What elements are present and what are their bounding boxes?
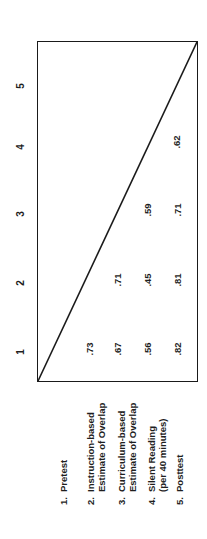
cell-r5-c2: .81 xyxy=(172,265,183,295)
cell-r4-c2: .45 xyxy=(142,265,153,295)
row-number: 5. xyxy=(174,492,185,505)
row-number: 2. xyxy=(85,492,96,505)
row-number: 1. xyxy=(58,492,69,505)
cell-r3-c2: .71 xyxy=(112,265,123,295)
row-label-line: Curriculum-based xyxy=(116,411,127,492)
row-label-line: Instruction-based xyxy=(85,412,96,492)
cell-r4-c3: .59 xyxy=(142,195,153,225)
rotated-correlation-table: 1 2 3 4 5 1.Pretest 2.Instruction-basedE… xyxy=(0,0,207,539)
row-number: 4. xyxy=(146,492,157,505)
cell-r5-c3: .71 xyxy=(172,195,183,225)
row-label-pretest: 1.Pretest xyxy=(58,460,69,505)
row-label-silent-reading: 4.Silent Reading(per 40 minutes) xyxy=(146,419,168,505)
row-label-line: Posttest xyxy=(174,455,185,492)
column-header-1: 1 xyxy=(15,342,27,362)
row-label-line: (per 40 minutes) xyxy=(157,419,168,492)
cell-r5-c4: .62 xyxy=(171,127,182,157)
row-label-curriculum-based: 3.Curriculum-basedEstimate of Overlap xyxy=(116,403,138,505)
cell-r5-c1: .82 xyxy=(172,334,183,364)
row-label-line: Estimate of Overlap xyxy=(127,403,138,492)
column-header-2: 2 xyxy=(15,273,27,293)
cell-r3-c1: .67 xyxy=(112,334,123,364)
row-label-line: Pretest xyxy=(58,460,69,492)
cell-r4-c1: .56 xyxy=(142,334,153,364)
cell-r2-c1: .73 xyxy=(84,334,95,364)
column-header-4: 4 xyxy=(15,137,27,157)
column-header-3: 3 xyxy=(15,204,27,224)
row-label-line: Estimate of Overlap xyxy=(96,403,107,492)
row-label-line: Silent Reading xyxy=(146,426,157,492)
row-label-instruction-based: 2.Instruction-basedEstimate of Overlap xyxy=(85,403,107,505)
row-number: 3. xyxy=(116,492,127,505)
row-label-posttest: 5.Posttest xyxy=(174,455,185,505)
column-header-5: 5 xyxy=(15,76,27,96)
